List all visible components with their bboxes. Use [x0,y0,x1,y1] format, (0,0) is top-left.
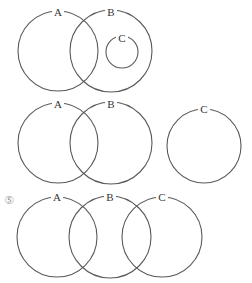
circle-c [167,109,241,183]
label-b: B [107,98,114,110]
label-a: A [54,6,62,18]
label-a: A [54,98,62,110]
circle-b [70,10,152,92]
label-c: C [158,191,165,203]
diagram-2: A B C [18,97,241,184]
circle-a [17,197,97,277]
label-c: C [118,32,125,44]
label-a: A [53,191,61,203]
circle-a [18,11,98,91]
diagram-3: ⑤ A B C [4,190,202,278]
label-b: B [107,6,114,18]
circle-b [69,196,151,278]
venn-diagrams: A B C A B C ⑤ A B C [0,0,252,283]
diagram-1: A B C [18,5,152,92]
circle-a [18,103,98,183]
circle-b [70,102,152,184]
circle-c [122,197,202,277]
label-b: B [106,191,113,203]
label-c: C [200,103,207,115]
option-number: ⑤ [4,194,14,207]
